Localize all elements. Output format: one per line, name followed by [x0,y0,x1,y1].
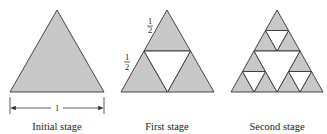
caption-second-stage: Second stage [249,121,304,132]
side-label-upper: 1 2 [147,16,153,35]
sierpinski-diagram: 1 1 2 1 2 Initial stage First stage Seco… [0,0,327,134]
fraction-denominator: 2 [148,25,152,35]
width-dimension: 1 [10,97,104,114]
fraction-denominator: 2 [125,62,129,72]
filled-triangle [266,10,289,31]
dimension-label: 1 [55,103,59,113]
first-stage-figure [121,10,214,92]
side-label-lower: 1 2 [124,52,130,72]
filled-triangle [10,10,104,92]
fraction-numerator: 1 [125,52,129,62]
second-stage-figure [231,10,323,92]
caption-initial-stage: Initial stage [32,121,82,132]
caption-first-stage: First stage [145,121,189,132]
initial-stage-figure [10,10,104,92]
